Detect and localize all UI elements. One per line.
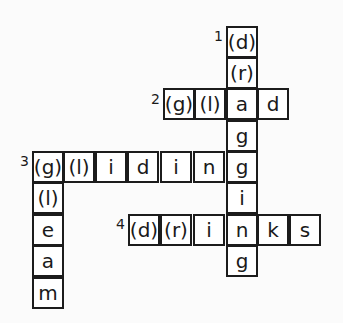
clue-number: 2 xyxy=(151,91,160,107)
crossword-cell[interactable]: m xyxy=(32,277,64,309)
crossword-cell[interactable]: n xyxy=(226,214,258,246)
crossword-cell[interactable]: i xyxy=(95,151,127,183)
crossword-cell[interactable]: i xyxy=(160,151,192,183)
crossword-cell[interactable]: k xyxy=(257,214,289,246)
crossword-cell[interactable]: (d) xyxy=(128,214,160,246)
crossword-cell[interactable]: (g) xyxy=(163,88,195,120)
crossword-cell[interactable]: d xyxy=(257,88,289,120)
crossword-cell[interactable]: (r) xyxy=(226,57,258,89)
crossword-cell[interactable]: n xyxy=(193,151,225,183)
crossword-cell[interactable]: (g) xyxy=(32,151,64,183)
crossword-cell[interactable]: i xyxy=(226,182,258,214)
crossword-cell[interactable]: g xyxy=(226,151,258,183)
crossword-cell[interactable]: (l) xyxy=(194,88,226,120)
crossword-cell[interactable]: (l) xyxy=(63,151,95,183)
crossword-cell[interactable]: (r) xyxy=(160,214,192,246)
crossword-cell[interactable]: (l) xyxy=(32,182,64,214)
crossword-cell[interactable]: g xyxy=(226,120,258,152)
crossword-cell[interactable]: e xyxy=(32,214,64,246)
crossword-cell[interactable]: i xyxy=(193,214,225,246)
clue-number: 3 xyxy=(20,153,29,169)
crossword-cell[interactable]: d xyxy=(127,151,159,183)
crossword-cell[interactable]: a xyxy=(32,245,64,277)
crossword-cell[interactable]: g xyxy=(226,245,258,277)
clue-number: 4 xyxy=(116,216,125,232)
crossword-cell[interactable]: a xyxy=(226,88,258,120)
crossword-cell[interactable]: (d) xyxy=(226,26,258,58)
crossword-cell[interactable]: s xyxy=(289,214,321,246)
clue-number: 1 xyxy=(214,28,223,44)
